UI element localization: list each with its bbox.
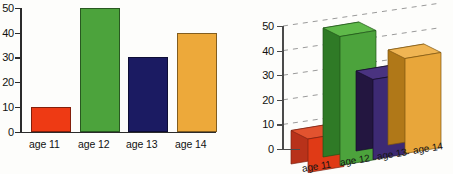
x-label-age-12-2d: age 12: [78, 139, 110, 150]
y-tick-mark-50-2d: [15, 8, 21, 9]
y-tick-label-50-3d: 50: [256, 21, 274, 32]
y-tick-label-10-3d: 10: [256, 119, 274, 130]
y-tick-mark-40-2d: [15, 33, 21, 34]
y-tick-label-20-2d: 20: [0, 77, 14, 88]
y-tick-label-10-2d: 10: [0, 102, 14, 113]
bar-age-12-2d: [80, 8, 120, 132]
y-tick-label-0-3d: 0: [256, 144, 274, 155]
y-tick-label-0-2d: 0: [0, 127, 14, 138]
bar-age-14-2d: [177, 33, 217, 132]
y-tick-mark-50-3d: [277, 26, 283, 27]
x-axis-line-2d: [20, 132, 216, 134]
y-tick-mark-40-3d: [277, 51, 283, 52]
y-tick-mark-20-2d: [15, 82, 21, 83]
plot-area-2d: [22, 8, 218, 132]
chart-canvas: 50 40 30 20 10 0 age 11 age 12 age 13 ag…: [0, 0, 453, 174]
bar-age-11-2d: [31, 107, 71, 132]
y-tick-label-30-2d: 30: [0, 52, 14, 63]
y-tick-label-30-3d: 30: [256, 70, 274, 81]
y-tick-mark-10-2d: [15, 107, 21, 108]
y-tick-label-20-3d: 20: [256, 95, 274, 106]
y-tick-mark-20-3d: [277, 100, 283, 101]
bar-age-14-front-face: [405, 53, 441, 154]
y-tick-mark-30-2d: [15, 57, 21, 58]
y-tick-label-50-2d: 50: [0, 3, 14, 14]
y-tick-mark-0-3d: [277, 149, 283, 150]
y-tick-label-40-3d: 40: [256, 46, 274, 57]
y-tick-mark-10-3d: [277, 124, 283, 125]
y-axis-line-3d: [282, 26, 284, 150]
y-tick-mark-30-3d: [277, 75, 283, 76]
flat-bar-chart: 50 40 30 20 10 0 age 11 age 12 age 13 ag…: [0, 0, 227, 174]
x-label-age-11-2d: age 11: [29, 139, 60, 150]
gridline-50: [283, 3, 441, 26]
three-d-bar-chart: 50 40 30 20 10 0 age 11 age 12 age 13 ag…: [227, 0, 453, 174]
x-label-age-13-2d: age 13: [126, 139, 158, 150]
x-axis-line-3d: [282, 149, 300, 150]
y-tick-mark-0-2d: [15, 132, 21, 133]
x-label-age-14-2d: age 14: [175, 139, 207, 150]
y-tick-label-40-2d: 40: [0, 28, 14, 39]
bar-age-14-3d: [388, 44, 441, 154]
bar-age-13-2d: [128, 57, 168, 131]
